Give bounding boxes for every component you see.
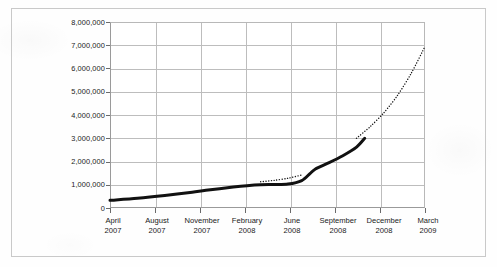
x-tick-mark	[425, 208, 426, 213]
x-tick-label: February 2008	[232, 216, 262, 235]
vertical-gridline	[156, 23, 157, 207]
x-tick-mark	[110, 208, 111, 213]
x-tick-label: June 2008	[284, 216, 301, 235]
horizontal-gridline	[111, 138, 424, 139]
horizontal-gridline	[111, 115, 424, 116]
x-tick-year: 2007	[105, 226, 122, 236]
x-tick-year: 2007	[184, 226, 219, 236]
y-tick-label: 4,000,000	[71, 112, 105, 119]
x-tick-label: September 2008	[319, 216, 356, 235]
x-tick-month: November	[184, 216, 219, 225]
x-tick-month: September	[319, 216, 356, 225]
vertical-gridline	[336, 23, 337, 207]
horizontal-gridline	[111, 162, 424, 163]
x-tick-mark	[200, 208, 201, 213]
plot-area	[110, 22, 425, 208]
x-tick-mark	[245, 208, 246, 213]
x-tick-label: March 2009	[417, 216, 438, 235]
y-tick-label: 8,000,000	[71, 19, 105, 26]
x-tick-month: June	[284, 216, 300, 225]
x-tick-month: April	[105, 216, 120, 225]
x-tick-month: March	[417, 216, 438, 225]
vertical-gridline	[201, 23, 202, 207]
chart-page: 8,000,000 7,000,000 6,000,000 5,000,000 …	[0, 0, 497, 267]
x-tick-year: 2009	[417, 226, 438, 236]
x-tick-month: February	[232, 216, 262, 225]
y-axis-labels: 8,000,000 7,000,000 6,000,000 5,000,000 …	[0, 0, 105, 267]
x-tick-label: August 2007	[145, 216, 169, 235]
x-tick-year: 2008	[284, 226, 301, 236]
horizontal-gridline	[111, 45, 424, 46]
x-tick-year: 2008	[232, 226, 262, 236]
horizontal-gridline	[111, 185, 424, 186]
x-tick-label: December 2008	[366, 216, 401, 235]
x-tick-mark	[290, 208, 291, 213]
vertical-gridline	[291, 23, 292, 207]
vertical-gridline	[381, 23, 382, 207]
x-tick-year: 2007	[145, 226, 169, 236]
x-tick-month: August	[145, 216, 169, 225]
x-tick-label: April 2007	[105, 216, 122, 235]
x-tick-month: December	[366, 216, 401, 225]
y-tick-label: 0	[101, 205, 105, 212]
y-tick-label: 6,000,000	[71, 65, 105, 72]
vertical-gridline	[246, 23, 247, 207]
x-tick-mark	[380, 208, 381, 213]
y-tick-label: 2,000,000	[71, 158, 105, 165]
x-tick-label: November 2007	[184, 216, 219, 235]
x-tick-mark	[155, 208, 156, 213]
y-tick-label: 1,000,000	[71, 181, 105, 188]
y-tick-label: 5,000,000	[71, 88, 105, 95]
x-tick-year: 2008	[319, 226, 356, 236]
y-tick-label: 7,000,000	[71, 42, 105, 49]
x-tick-year: 2008	[366, 226, 401, 236]
x-tick-mark	[335, 208, 336, 213]
horizontal-gridline	[111, 69, 424, 70]
horizontal-gridline	[111, 92, 424, 93]
y-tick-label: 3,000,000	[71, 135, 105, 142]
